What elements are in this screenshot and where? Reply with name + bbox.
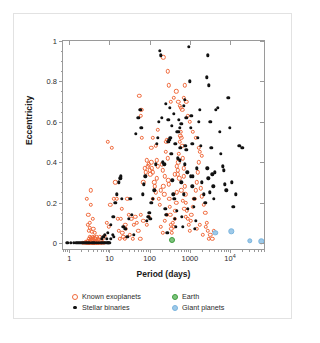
data-point: [240, 146, 243, 149]
data-point: [202, 193, 205, 196]
data-point: [167, 182, 171, 186]
data-point: [226, 96, 229, 99]
data-point: [92, 241, 95, 244]
legend-label-stellar-binaries: Stellar binaries: [82, 303, 130, 312]
data-point: [203, 201, 206, 204]
data-point: [106, 231, 109, 234]
x-minor-tick: [93, 249, 94, 252]
data-point: [101, 235, 104, 238]
chart-legend: Known exoplanets Earth Stellar binaries …: [72, 291, 262, 313]
data-point: [222, 169, 225, 172]
y-minor-tick: [61, 132, 64, 133]
data-point: [95, 241, 99, 245]
data-point: [148, 211, 151, 214]
data-point: [185, 148, 188, 151]
y-minor-tick: [61, 71, 64, 72]
y-minor-tick: [61, 152, 64, 153]
data-point: [108, 202, 112, 206]
x-minor-tick: [226, 249, 227, 252]
data-point: [206, 53, 209, 56]
data-point: [166, 231, 169, 234]
data-point: [165, 138, 169, 142]
data-point: [145, 219, 148, 222]
data-point: [137, 116, 140, 119]
data-point: [102, 241, 105, 244]
data-point: [164, 140, 168, 144]
x-minor-tick: [122, 249, 123, 252]
data-point: [146, 215, 149, 218]
data-point: [95, 237, 99, 241]
data-point: [191, 142, 194, 145]
data-point: [151, 196, 155, 200]
data-point: [86, 212, 90, 216]
data-point: [72, 241, 75, 244]
data-point: [178, 134, 182, 138]
data-point: [131, 237, 135, 241]
y-tick-right-0.6: [260, 122, 264, 123]
data-point: [90, 241, 94, 245]
data-point: [161, 184, 165, 188]
data-point: [178, 140, 182, 144]
data-point: [200, 154, 204, 158]
x-minor-tick: [101, 249, 102, 252]
y-minor-tick: [61, 223, 64, 224]
data-point: [84, 196, 88, 200]
x-minor-tick: [178, 249, 179, 252]
data-point: [142, 183, 145, 186]
data-point: [100, 237, 103, 240]
x-minor-tick: [218, 249, 219, 252]
data-point: [210, 237, 214, 241]
y-minor-tick: [61, 91, 64, 92]
data-point: [207, 237, 211, 241]
data-point: [204, 221, 208, 225]
data-point: [172, 225, 176, 229]
data-point: [184, 144, 187, 147]
data-point: [69, 241, 72, 244]
data-point: [89, 188, 93, 192]
data-point: [146, 164, 150, 168]
data-point: [119, 206, 123, 210]
y-tick-label-0.6: 0.6: [47, 117, 57, 126]
data-point: [115, 217, 119, 221]
data-point: [126, 235, 129, 238]
data-point: [170, 152, 173, 155]
data-point: [124, 227, 127, 230]
data-point: [149, 217, 152, 220]
data-point: [160, 116, 163, 119]
data-point: [216, 106, 219, 109]
data-point: [207, 177, 210, 180]
data-point: [212, 229, 216, 233]
data-point: [176, 172, 180, 176]
data-point: [208, 120, 211, 123]
x-tick-1000: [190, 249, 191, 253]
data-point: [90, 241, 94, 245]
data-point: [186, 114, 190, 118]
data-point: [100, 237, 104, 241]
x-tick-label-100: 100: [143, 254, 156, 263]
data-point: [88, 226, 92, 230]
x-minor-tick: [169, 249, 170, 252]
data-point: [97, 241, 101, 245]
data-point: [97, 241, 100, 244]
data-point: [151, 170, 155, 174]
data-point: [84, 241, 87, 244]
data-point: [114, 196, 118, 200]
data-point: [164, 212, 168, 216]
data-point: [131, 223, 135, 227]
y-minor-tick: [61, 51, 64, 52]
data-point: [182, 104, 185, 107]
data-point: [199, 144, 202, 147]
data-point: [238, 144, 241, 147]
data-point: [169, 99, 173, 103]
data-point: [144, 175, 147, 178]
data-point: [173, 172, 177, 176]
data-point: [92, 241, 96, 245]
data-point: [136, 229, 140, 233]
data-point: [185, 116, 188, 119]
data-point: [110, 146, 114, 150]
data-point: [153, 144, 157, 148]
data-point: [179, 136, 183, 140]
data-point: [208, 191, 211, 194]
data-point: [176, 168, 180, 172]
data-point: [96, 241, 100, 245]
